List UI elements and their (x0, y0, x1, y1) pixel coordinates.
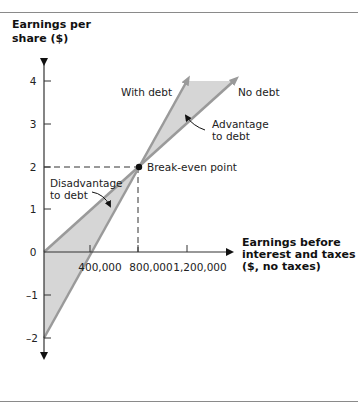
disadvantage-label-line2: to debt (50, 189, 88, 201)
y-tick-neg2: –2 (26, 332, 38, 344)
x-ticks (90, 245, 187, 252)
x-axis-title-line3: ($, no taxes) (242, 260, 321, 273)
break-even-point (136, 164, 142, 170)
y-tick-1: 1 (30, 203, 37, 215)
x-tick-800000: 800,000 (129, 261, 172, 273)
advantage-label-line2: to debt (212, 130, 250, 142)
y-axis-title-line1: Earnings per (12, 18, 91, 31)
y-tick-4: 4 (30, 75, 37, 87)
break-even-label: Break-even point (147, 161, 237, 173)
y-axis-title-line2: share ($) (12, 32, 68, 45)
chart-canvas: 4 3 2 1 0 –1 –2 400,000 800,000 1,200,00… (0, 0, 358, 413)
with-debt-line (44, 79, 188, 338)
no-debt-label: No debt (238, 86, 280, 98)
advantage-label-line1: Advantage (212, 118, 269, 130)
x-tick-400000: 400,000 (78, 261, 121, 273)
with-debt-label: With debt (121, 86, 172, 98)
y-tick-2: 2 (30, 161, 37, 173)
y-tick-0: 0 (30, 246, 37, 258)
y-tick-3: 3 (30, 118, 37, 130)
y-tick-neg1: –1 (26, 289, 38, 301)
x-tick-1200000: 1,200,000 (173, 261, 226, 273)
disadvantage-label-line1: Disadvantage (50, 177, 123, 189)
